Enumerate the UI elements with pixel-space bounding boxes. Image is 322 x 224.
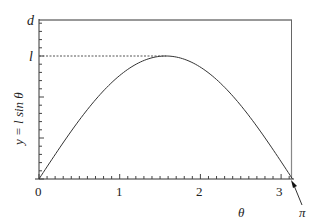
x-tick-label-0: 0	[35, 184, 42, 199]
sine-curve	[39, 56, 293, 179]
x-axis-ticks	[39, 174, 289, 179]
l-label: l	[29, 49, 33, 64]
y-axis-label: y = l sin θ	[11, 92, 26, 147]
x-tick-label-2: 2	[196, 184, 203, 199]
sine-chart: d l 0 1 2 3 θ π y = l sin θ	[0, 0, 322, 224]
d-label: d	[27, 13, 35, 28]
x-axis-label: θ	[238, 205, 245, 220]
pi-arrow-head	[291, 180, 297, 188]
x-tick-label-1: 1	[116, 184, 123, 199]
y-axis-ticks	[39, 23, 44, 179]
x-tick-label-3: 3	[276, 184, 283, 199]
pi-label: π	[299, 205, 306, 220]
